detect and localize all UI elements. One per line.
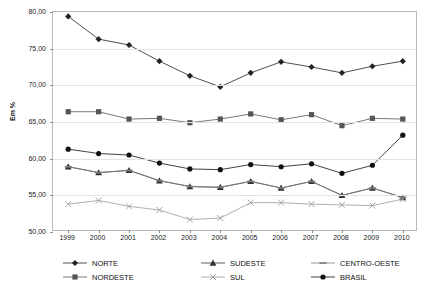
- square-marker: [400, 116, 405, 121]
- y-tick-mark: [50, 232, 53, 233]
- y-tick-label: 80,00: [0, 11, 46, 12]
- circle-marker: [126, 152, 131, 157]
- y-axis-label: Em %: [9, 92, 16, 132]
- grid-line: [53, 122, 416, 123]
- x-tick-mark: [68, 230, 69, 233]
- x-tick-mark: [312, 230, 313, 233]
- x-tick-mark: [159, 230, 160, 233]
- diamond-marker: [187, 73, 193, 79]
- grid-line: [53, 159, 416, 160]
- x-tick-mark: [220, 230, 221, 233]
- grid-line: [53, 195, 416, 196]
- grid-line: [53, 49, 416, 50]
- square-icon: [62, 272, 88, 282]
- circle-marker: [279, 164, 284, 169]
- cross-icon: [200, 272, 226, 282]
- square-marker: [157, 116, 162, 121]
- series-line: [68, 112, 403, 126]
- legend-item-sul[interactable]: SUL: [200, 272, 245, 282]
- y-tick-label: 75,00: [0, 48, 46, 49]
- square-marker: [218, 116, 223, 121]
- diamond-marker: [126, 42, 132, 48]
- series-brasil: [66, 133, 406, 176]
- diamond-marker: [156, 58, 162, 64]
- circle-marker: [218, 167, 223, 172]
- diamond-marker: [96, 36, 102, 42]
- circle-marker: [400, 133, 405, 138]
- x-tick-mark: [403, 230, 404, 233]
- legend-label: NORTE: [92, 259, 118, 268]
- diamond-marker: [278, 59, 284, 65]
- y-tick-mark: [50, 12, 53, 13]
- square-marker: [370, 116, 375, 121]
- square-marker: [66, 109, 71, 114]
- x-tick-mark: [190, 230, 191, 233]
- square-marker: [248, 111, 253, 116]
- legend-label: SUL: [230, 273, 245, 282]
- circle-marker: [370, 163, 375, 168]
- x-tick-mark: [342, 230, 343, 233]
- series-line: [68, 135, 403, 173]
- y-tick-mark: [50, 195, 53, 196]
- square-marker: [309, 112, 314, 117]
- x-tick-label: 2010: [382, 234, 422, 241]
- legend-item-centro-oeste[interactable]: CENTRO-OESTE: [310, 258, 400, 268]
- chart-legend: NORTESUDESTECENTRO-OESTENORDESTESULBRASI…: [52, 258, 417, 292]
- grid-line: [53, 85, 416, 86]
- diamond-marker: [308, 64, 314, 70]
- square-marker: [72, 274, 77, 279]
- circle-marker: [157, 160, 162, 165]
- x-tick-mark: [251, 230, 252, 233]
- diamond-marker: [400, 58, 406, 64]
- y-tick-label: 55,00: [0, 194, 46, 195]
- y-tick-label: 70,00: [0, 84, 46, 85]
- chart-figure: Em % 50,0055,0060,0065,0070,0075,0080,00…: [0, 0, 430, 296]
- x-tick-mark: [99, 230, 100, 233]
- circle-marker: [66, 147, 71, 152]
- circle-marker: [339, 171, 344, 176]
- x-tick-mark: [129, 230, 130, 233]
- y-tick-mark: [50, 122, 53, 123]
- square-marker: [96, 109, 101, 114]
- diamond-marker: [339, 70, 345, 76]
- y-tick-mark: [50, 49, 53, 50]
- series-norte: [65, 13, 406, 90]
- y-tick-label: 60,00: [0, 158, 46, 159]
- series-centro-oeste: [65, 167, 407, 198]
- square-marker: [339, 123, 344, 128]
- circle-marker: [248, 162, 253, 167]
- series-sul: [65, 196, 406, 223]
- diamond-marker: [369, 63, 375, 69]
- series-line: [68, 199, 403, 220]
- diamond-marker: [72, 260, 78, 266]
- x-tick-mark: [281, 230, 282, 233]
- y-tick-label: 50,00: [0, 231, 46, 232]
- plot-area: [52, 11, 417, 231]
- diamond-marker: [65, 13, 71, 19]
- series-nordeste: [66, 109, 406, 128]
- square-marker: [126, 116, 131, 121]
- x-tick-mark: [372, 230, 373, 233]
- legend-label: SUDESTE: [230, 259, 265, 268]
- legend-label: NORDESTE: [92, 273, 134, 282]
- legend-item-norte[interactable]: NORTE: [62, 258, 118, 268]
- triangle-icon: [200, 258, 226, 268]
- legend-item-sudeste[interactable]: SUDESTE: [200, 258, 265, 268]
- circle-marker: [320, 274, 325, 279]
- legend-item-brasil[interactable]: BRASIL: [310, 272, 367, 282]
- y-tick-mark: [50, 159, 53, 160]
- circle-marker: [309, 161, 314, 166]
- series-line: [68, 167, 403, 198]
- legend-item-nordeste[interactable]: NORDESTE: [62, 272, 134, 282]
- circle-marker: [187, 166, 192, 171]
- legend-label: BRASIL: [340, 273, 367, 282]
- circle-marker: [96, 151, 101, 156]
- circle-icon: [310, 272, 336, 282]
- dash-icon: [310, 258, 336, 268]
- chart-title-clipped: [52, 0, 417, 8]
- diamond-marker: [248, 70, 254, 76]
- series-line: [68, 16, 403, 86]
- diamond-icon: [62, 258, 88, 268]
- y-tick-label: 65,00: [0, 121, 46, 122]
- legend-label: CENTRO-OESTE: [340, 259, 400, 268]
